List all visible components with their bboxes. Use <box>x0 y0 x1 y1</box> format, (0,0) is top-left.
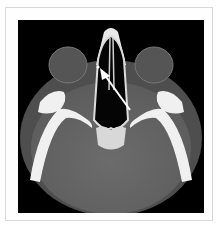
left-globe <box>49 47 87 83</box>
right-globe <box>135 47 173 83</box>
foreign-body-dot <box>97 66 100 69</box>
ct-scan-graphic <box>18 20 204 213</box>
ct-scan-image <box>18 20 204 213</box>
